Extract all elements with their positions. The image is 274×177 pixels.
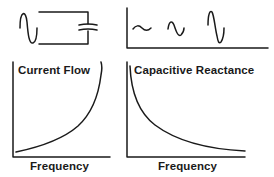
reactance-xlabel: Frequency [158, 160, 217, 172]
waveform-large-icon [208, 12, 224, 43]
reactance-title: Capacitive Reactance [134, 64, 254, 76]
circuit-wire-bottom [39, 31, 88, 44]
current-flow-title: Current Flow [18, 64, 90, 76]
waveform-small-icon [133, 26, 151, 30]
reactance-curve [130, 66, 245, 151]
ac-source-icon [20, 14, 37, 43]
diagram-canvas [0, 0, 274, 177]
reactance-axes [127, 62, 245, 157]
capacitor-icon [79, 24, 97, 30]
current-flow-xlabel: Frequency [30, 160, 89, 172]
current-flow-axes [13, 62, 110, 157]
circuit-wire-top [39, 12, 88, 24]
waveform-axes [127, 8, 268, 48]
waveform-medium-icon [168, 22, 184, 35]
